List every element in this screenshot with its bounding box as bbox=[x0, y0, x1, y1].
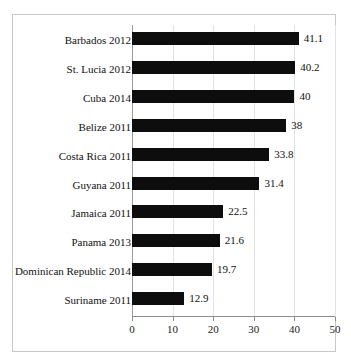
bar-row: St. Lucia 201240.2 bbox=[13, 56, 335, 84]
category-label: Jamaica 2011 bbox=[71, 206, 131, 221]
x-tick-mark-30 bbox=[254, 317, 255, 321]
bar bbox=[132, 177, 259, 190]
category-label: Dominican Republic 2014 bbox=[15, 264, 131, 279]
bar-row: Dominican Republic 201419.7 bbox=[13, 258, 335, 286]
category-label: Cuba 2014 bbox=[83, 91, 131, 106]
x-tick-mark-10 bbox=[173, 317, 174, 321]
x-tick-mark-0 bbox=[132, 317, 133, 321]
bar-value-label: 19.7 bbox=[217, 263, 236, 276]
bar bbox=[132, 292, 184, 305]
bar-value-label: 12.9 bbox=[189, 292, 208, 305]
x-tick-label-0: 0 bbox=[117, 322, 147, 336]
bar-value-label: 22.5 bbox=[228, 205, 247, 218]
bar-row: Suriname 201112.9 bbox=[13, 287, 335, 315]
bar bbox=[132, 61, 295, 74]
x-tick-mark-50 bbox=[335, 317, 336, 321]
bar-value-label: 41.1 bbox=[304, 32, 323, 45]
bar-value-label: 33.8 bbox=[274, 148, 293, 161]
bar-row: Costa Rica 201133.8 bbox=[13, 143, 335, 171]
bar-value-label: 31.4 bbox=[264, 177, 283, 190]
x-gridline-50 bbox=[335, 25, 336, 316]
category-label: Guyana 2011 bbox=[72, 178, 131, 193]
category-label: St. Lucia 2012 bbox=[67, 62, 131, 77]
bar-value-label: 38 bbox=[291, 119, 302, 132]
x-axis-line bbox=[132, 316, 335, 317]
category-label: Suriname 2011 bbox=[65, 293, 132, 308]
x-tick-label-50: 50 bbox=[320, 322, 350, 336]
category-label: Panama 2013 bbox=[71, 235, 131, 250]
category-label: Belize 2011 bbox=[79, 120, 131, 135]
bar-value-label: 40 bbox=[299, 90, 310, 103]
bar-row: Barbados 201241.1 bbox=[13, 27, 335, 55]
x-tick-mark-20 bbox=[213, 317, 214, 321]
category-label: Barbados 2012 bbox=[65, 33, 131, 48]
bar bbox=[132, 148, 269, 161]
bar bbox=[132, 119, 286, 132]
bar bbox=[132, 263, 212, 276]
x-tick-label-20: 20 bbox=[198, 322, 228, 336]
bar bbox=[132, 90, 294, 103]
bar-value-label: 21.6 bbox=[225, 234, 244, 247]
x-tick-label-40: 40 bbox=[279, 322, 309, 336]
bar bbox=[132, 234, 220, 247]
x-tick-label-30: 30 bbox=[239, 322, 269, 336]
bar bbox=[132, 32, 299, 45]
x-tick-label-10: 10 bbox=[158, 322, 188, 336]
bar bbox=[132, 205, 223, 218]
bar-row: Belize 201138 bbox=[13, 114, 335, 142]
category-label: Costa Rica 2011 bbox=[59, 149, 131, 164]
bar-row: Jamaica 201122.5 bbox=[13, 200, 335, 228]
x-tick-mark-40 bbox=[294, 317, 295, 321]
bar-row: Guyana 201131.4 bbox=[13, 172, 335, 200]
bar-row: Panama 201321.6 bbox=[13, 229, 335, 257]
bar-value-label: 40.2 bbox=[300, 61, 319, 74]
plot-area: 01020304050Barbados 201241.1St. Lucia 20… bbox=[13, 15, 335, 351]
bar-row: Cuba 201440 bbox=[13, 85, 335, 113]
chart-figure: 01020304050Barbados 201241.1St. Lucia 20… bbox=[12, 14, 336, 352]
